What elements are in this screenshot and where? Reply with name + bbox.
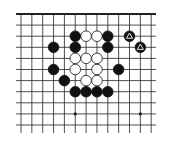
black-stone-disc [48,42,59,53]
white-stone-disc [92,53,103,64]
black-stone-disc [103,31,114,42]
black-stone [81,86,92,97]
star-point [139,112,142,115]
white-stone-disc [81,53,92,64]
black-stone [48,64,59,75]
black-stone [103,42,114,53]
white-stone-disc [70,64,81,75]
white-stone [92,31,103,42]
white-stone-disc [70,53,81,64]
black-stone [124,31,135,42]
white-stone-disc [81,31,92,42]
white-stone [92,75,103,86]
white-stone [92,53,103,64]
black-stone [92,86,103,97]
black-stone [70,86,81,97]
black-stone-disc [113,64,124,75]
black-stone [70,31,81,42]
black-stone-disc [59,75,70,86]
black-stone [103,31,114,42]
white-stone [92,64,103,75]
black-stone [48,42,59,53]
black-stone [113,64,124,75]
white-stone-disc [81,75,92,86]
white-stone [70,64,81,75]
stones [48,31,145,97]
black-stone-disc [103,42,114,53]
black-stone [59,75,70,86]
black-stone-disc [70,86,81,97]
black-stone-disc [48,64,59,75]
black-stone [135,42,146,53]
white-stone-disc [92,31,103,42]
black-stone-disc [92,86,103,97]
white-stone [81,31,92,42]
go-board [0,0,170,146]
black-stone-disc [81,86,92,97]
black-stone-disc [103,86,114,97]
black-stone [103,86,114,97]
white-stone [81,53,92,64]
white-stone [70,53,81,64]
black-stone-disc [70,42,81,53]
star-point [74,112,77,115]
white-stone-disc [92,64,103,75]
white-stone [81,75,92,86]
black-stone [70,42,81,53]
white-stone-disc [92,75,103,86]
black-stone-disc [70,31,81,42]
